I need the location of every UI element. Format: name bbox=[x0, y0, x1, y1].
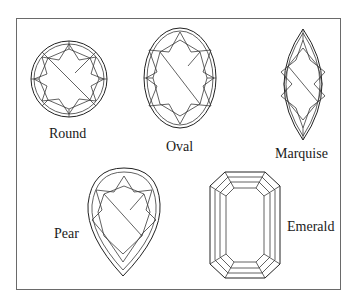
label-marquise: Marquise bbox=[275, 147, 328, 161]
label-round: Round bbox=[49, 127, 86, 141]
emerald-cut-icon bbox=[210, 172, 280, 278]
oval-cut-icon bbox=[144, 28, 216, 128]
label-oval: Oval bbox=[166, 140, 193, 154]
round-cut-icon bbox=[31, 41, 107, 117]
label-pear: Pear bbox=[54, 227, 79, 241]
label-emerald: Emerald bbox=[287, 220, 334, 234]
marquise-cut-icon bbox=[281, 29, 325, 140]
pear-cut-icon bbox=[88, 168, 160, 276]
